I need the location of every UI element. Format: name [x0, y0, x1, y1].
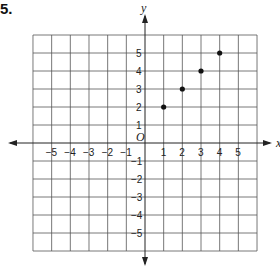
y-tick-label: −2 — [131, 174, 143, 185]
y-tick-label: −3 — [131, 192, 143, 203]
x-tick-label: 4 — [217, 147, 223, 158]
data-point — [198, 68, 203, 73]
y-tick-label: 2 — [136, 102, 142, 113]
x-axis-right-arrow-icon — [263, 140, 272, 146]
x-tick-label: −4 — [64, 147, 76, 158]
x-tick-label: −3 — [83, 147, 95, 158]
y-tick-label: 1 — [136, 120, 142, 131]
y-axis-down-arrow-icon — [142, 257, 148, 266]
y-axis-up-arrow-icon — [142, 14, 148, 23]
coordinate-plane: xyO−5−4−3−2−112345−5−4−3−2−112345 — [0, 0, 280, 274]
y-tick-label: 5 — [136, 48, 142, 59]
x-tick-label: 5 — [235, 147, 241, 158]
x-axis-label: x — [275, 136, 280, 150]
data-point — [161, 104, 166, 109]
y-tick-label: 4 — [136, 66, 142, 77]
y-axis-label: y — [140, 1, 147, 15]
x-axis-left-arrow-icon — [8, 140, 17, 146]
origin-label: O — [136, 130, 145, 144]
x-tick-label: 3 — [198, 147, 204, 158]
data-point — [180, 86, 185, 91]
y-tick-label: 3 — [136, 84, 142, 95]
x-tick-label: 2 — [179, 147, 185, 158]
x-tick-label: −5 — [46, 147, 58, 158]
data-point — [217, 50, 222, 55]
y-tick-label: −1 — [131, 156, 143, 167]
x-tick-label: −2 — [102, 147, 114, 158]
y-tick-label: −4 — [131, 210, 143, 221]
x-tick-label: 1 — [161, 147, 167, 158]
y-tick-label: −5 — [131, 228, 143, 239]
